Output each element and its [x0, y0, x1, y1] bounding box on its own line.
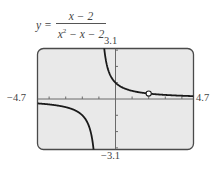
graph-window — [0, 0, 221, 174]
hole-marker — [146, 91, 151, 96]
